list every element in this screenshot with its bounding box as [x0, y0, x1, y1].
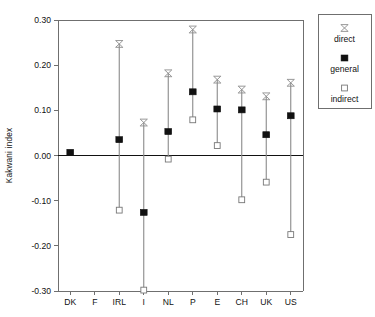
- marker-indirect: [165, 156, 171, 162]
- y-tick-label: 0.10: [34, 105, 51, 115]
- marker-indirect: [116, 207, 122, 213]
- marker-general: [116, 137, 123, 143]
- marker-indirect: [239, 197, 245, 203]
- marker-indirect: [288, 232, 294, 238]
- y-tick-label: -0.10: [31, 196, 51, 206]
- y-axis-title: Kakwani index: [5, 128, 14, 183]
- y-tick-label: 0.20: [34, 60, 51, 70]
- x-category-label: UK: [260, 297, 272, 307]
- category-group-DK: [67, 149, 74, 155]
- marker-general: [67, 149, 74, 155]
- x-category-label: I: [143, 297, 145, 307]
- y-tick-label: 0.00: [34, 151, 51, 161]
- marker-general: [189, 89, 196, 95]
- legend-marker-indirect: [342, 85, 348, 91]
- kakwani-index-chart: 0.300.200.100.00-0.10-0.20-0.30 DKFIRLIN…: [0, 0, 375, 317]
- chart-legend: directgeneralindirect: [318, 14, 371, 108]
- y-tick-label: -0.20: [31, 241, 51, 251]
- x-category-label: E: [214, 297, 220, 307]
- marker-indirect: [263, 179, 269, 185]
- marker-indirect: [214, 143, 220, 149]
- marker-general: [214, 106, 221, 112]
- y-axis-label: Kakwani index: [5, 128, 14, 183]
- marker-general: [263, 132, 270, 138]
- x-category-label: US: [285, 297, 297, 307]
- x-category-label: NL: [163, 297, 174, 307]
- x-category-label: DK: [64, 297, 76, 307]
- marker-general: [287, 113, 294, 119]
- legend-label: indirect: [331, 94, 359, 104]
- y-tick-label: 0.30: [34, 15, 51, 25]
- marker-general: [165, 129, 172, 135]
- x-category-label: CH: [236, 297, 248, 307]
- y-tick-label: -0.30: [31, 286, 51, 296]
- marker-indirect: [141, 287, 147, 293]
- marker-general: [140, 209, 147, 215]
- marker-general: [238, 107, 245, 113]
- legend-label: direct: [334, 34, 356, 44]
- legend-marker-general: [341, 55, 348, 61]
- x-category-label: P: [190, 297, 196, 307]
- x-category-label: F: [92, 297, 97, 307]
- marker-indirect: [190, 117, 196, 123]
- chart-canvas: 0.300.200.100.00-0.10-0.20-0.30 DKFIRLIN…: [0, 0, 375, 317]
- legend-label: general: [330, 64, 359, 74]
- x-category-label: IRL: [113, 297, 127, 307]
